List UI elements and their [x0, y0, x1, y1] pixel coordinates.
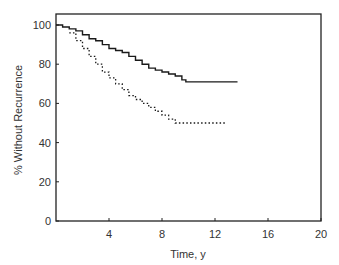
y-axis-ticks: 020406080100: [33, 19, 59, 227]
survival-chart: 020406080100 48121620 Time, y % Without …: [0, 0, 339, 265]
x-tick-label: 4: [106, 228, 112, 240]
y-tick-label: 80: [39, 58, 51, 70]
dotted-series-line: [69, 33, 225, 123]
x-tick-label: 20: [315, 228, 327, 240]
plot-frame: [56, 14, 321, 221]
series-lines: [56, 25, 238, 123]
x-axis-title: Time, y: [170, 248, 206, 260]
solid-series-line: [56, 25, 238, 82]
y-tick-label: 100: [33, 19, 51, 31]
x-tick-label: 12: [209, 228, 221, 240]
x-tick-label: 16: [262, 228, 274, 240]
x-tick-label: 8: [159, 228, 165, 240]
y-axis-title: % Without Recurrence: [12, 65, 24, 175]
y-tick-label: 40: [39, 137, 51, 149]
y-tick-label: 20: [39, 176, 51, 188]
y-tick-label: 60: [39, 97, 51, 109]
y-tick-label: 0: [45, 215, 51, 227]
